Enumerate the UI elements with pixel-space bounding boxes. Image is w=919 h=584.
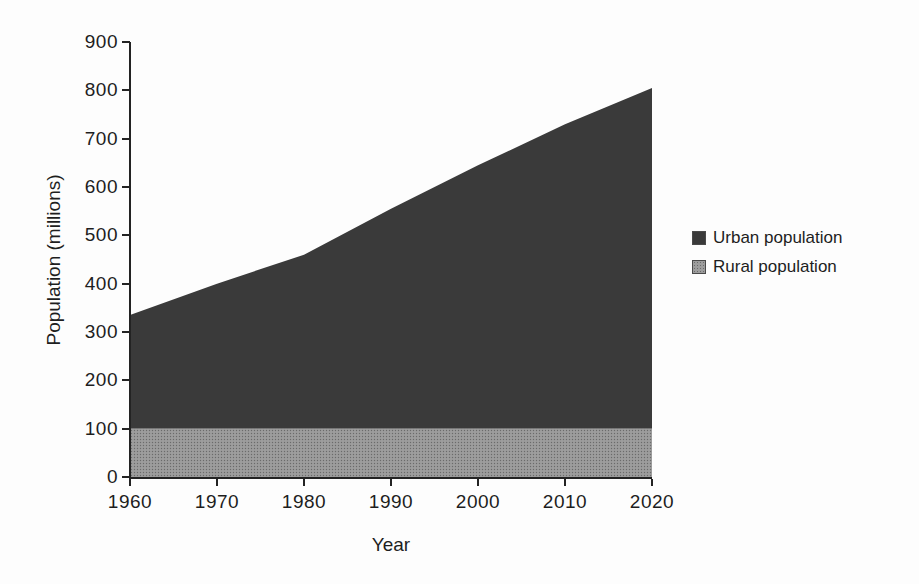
rural-swatch-icon [692, 260, 706, 274]
y-tick-mark [122, 89, 130, 91]
x-tick-label: 2010 [530, 492, 600, 512]
y-tick-mark [122, 186, 130, 188]
x-tick-label: 2000 [443, 492, 513, 512]
urban-swatch-icon [692, 231, 706, 245]
population-stacked-area-chart: Population (millions) 010020030040050060… [0, 0, 919, 584]
legend-item-urban: Urban population [692, 228, 842, 248]
y-tick-label: 900 [58, 32, 118, 52]
x-tick-mark [303, 479, 305, 486]
x-tick-mark [477, 479, 479, 486]
y-tick-mark [122, 476, 130, 478]
legend-item-rural: Rural population [692, 257, 842, 277]
y-tick-mark [122, 283, 130, 285]
x-tick-label: 1980 [269, 492, 339, 512]
x-tick-label: 2020 [617, 492, 687, 512]
x-tick-label: 1960 [95, 492, 165, 512]
legend: Urban population Rural population [692, 228, 842, 286]
legend-label-urban: Urban population [713, 228, 842, 248]
y-tick-label: 700 [58, 129, 118, 149]
y-tick-label: 500 [58, 225, 118, 245]
y-tick-mark [122, 331, 130, 333]
x-tick-label: 1990 [356, 492, 426, 512]
y-tick-label: 600 [58, 177, 118, 197]
y-tick-mark [122, 138, 130, 140]
x-tick-label: 1970 [182, 492, 252, 512]
y-tick-mark [122, 41, 130, 43]
x-axis-title: Year [130, 534, 652, 556]
y-tick-label: 0 [58, 467, 118, 487]
y-tick-label: 100 [58, 419, 118, 439]
legend-label-rural: Rural population [713, 257, 837, 277]
x-tick-mark [651, 479, 653, 486]
y-tick-mark [122, 379, 130, 381]
y-tick-label: 300 [58, 322, 118, 342]
x-tick-mark [390, 479, 392, 486]
x-tick-mark [216, 479, 218, 486]
stacked-area-plot [130, 42, 652, 477]
y-tick-mark [122, 234, 130, 236]
x-tick-mark [129, 479, 131, 486]
y-tick-mark [122, 428, 130, 430]
y-tick-label: 400 [58, 274, 118, 294]
y-axis-line [129, 42, 131, 479]
y-tick-label: 200 [58, 370, 118, 390]
y-axis-title: Population (millions) [43, 42, 65, 479]
x-tick-mark [564, 479, 566, 486]
urban-population-area [130, 88, 652, 429]
y-tick-label: 800 [58, 80, 118, 100]
rural-population-area [130, 429, 652, 477]
